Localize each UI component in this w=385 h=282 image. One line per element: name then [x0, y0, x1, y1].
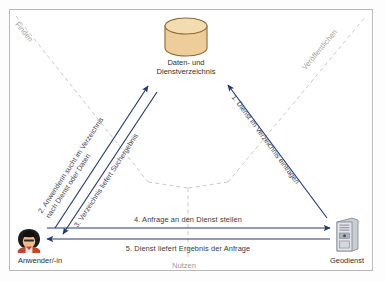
dashed-label-nutzen: Nutzen — [172, 261, 196, 270]
flow-label-4: 4. Anfrage an den Dienst stellen — [88, 215, 288, 224]
registry-node-label: Daten- und Dienstverzeichnis — [138, 58, 234, 77]
user-person-icon — [14, 226, 44, 258]
diagram-canvas: Daten- und Dienstverzeichnis Anwender/-i… — [0, 0, 385, 282]
service-node-label: Geodienst — [312, 256, 382, 265]
user-node-label: Anwender/-in — [2, 256, 78, 265]
flow-label-5: 5. Dienst liefert Ergebnis der Anfrage — [78, 244, 298, 253]
service-label-text: Geodienst — [330, 256, 364, 265]
registry-label-line2: Dienstverzeichnis — [157, 67, 216, 76]
database-cylinder-icon — [162, 17, 210, 63]
server-tower-icon — [333, 217, 361, 257]
registry-label-line1: Daten- und — [167, 58, 204, 67]
user-label-text: Anwender/-in — [18, 256, 62, 265]
